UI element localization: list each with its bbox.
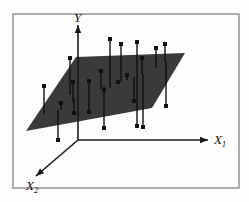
regression-plane-figure: Y X1 X2: [0, 0, 249, 202]
data-point-marker: [42, 84, 46, 88]
x1-axis-arrowhead: [200, 137, 208, 143]
x2-axis-label: X2: [25, 178, 38, 195]
data-point-marker: [59, 101, 63, 105]
x1-axis-label: X1: [213, 132, 226, 149]
data-point-marker: [135, 40, 139, 44]
data-point-marker: [132, 99, 136, 103]
data-point-marker: [87, 110, 91, 114]
data-point-marker: [102, 126, 106, 130]
data-point-marker: [71, 80, 75, 84]
figure-container: Y X1 X2: [0, 0, 249, 202]
data-point-marker: [72, 111, 76, 115]
data-point-marker: [154, 46, 158, 50]
data-point-marker: [99, 69, 103, 73]
y-axis-label: Y: [74, 10, 83, 25]
data-point-marker: [68, 56, 72, 60]
data-point-marker: [164, 104, 168, 108]
data-point-marker: [102, 88, 106, 92]
data-point-marker: [108, 37, 112, 41]
data-point-marker: [135, 124, 139, 128]
x2-axis: [36, 140, 78, 176]
data-point-marker: [163, 42, 167, 46]
y-axis-arrowhead: [75, 25, 81, 33]
data-point-marker: [119, 42, 123, 46]
data-point-marker: [116, 80, 120, 84]
data-point-marker: [140, 56, 144, 60]
data-point-marker: [141, 125, 145, 129]
data-point-marker: [125, 73, 129, 77]
data-point-marker: [87, 79, 91, 83]
data-point-marker: [56, 138, 60, 142]
